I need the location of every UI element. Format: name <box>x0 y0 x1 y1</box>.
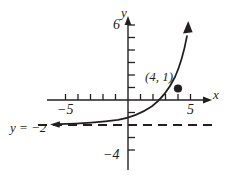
y-axis-label: y <box>121 6 127 19</box>
y-tick-label-6: 6 <box>113 18 120 32</box>
asymptote-label: y = −2 <box>10 121 46 134</box>
x-axis-label: x <box>213 88 219 101</box>
data-point-marker <box>174 84 182 92</box>
y-axis <box>125 16 132 170</box>
x-tick-label-negative-5: −5 <box>57 103 73 117</box>
curve-left-arrowhead <box>50 121 60 128</box>
y-axis-ticks <box>128 25 135 150</box>
x-tick-label-5: 5 <box>187 103 194 117</box>
x-axis-arrowhead <box>203 97 212 104</box>
y-tick-label-negative-4: −4 <box>103 148 119 162</box>
curve-up-arrowhead <box>183 21 193 34</box>
data-point-label: (4, 1) <box>145 70 173 83</box>
figure-canvas: y x 6 −4 −5 5 (4, 1) y = −2 <box>0 0 231 181</box>
